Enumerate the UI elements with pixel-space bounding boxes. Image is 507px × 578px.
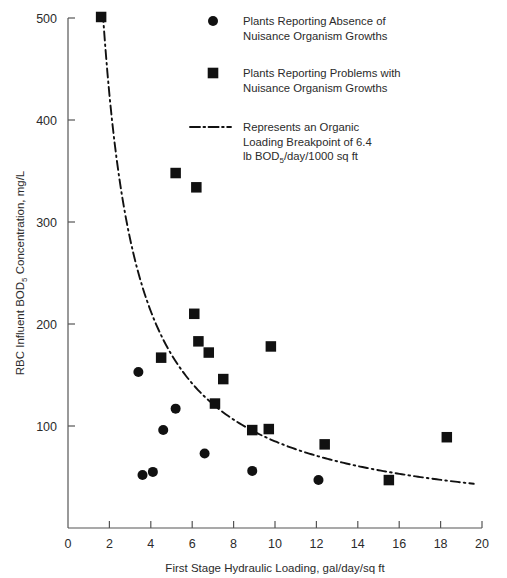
legend-label: Plants Reporting Absence ofNuisance Orga… [243, 15, 388, 42]
data-point-square [189, 309, 200, 320]
legend-circle-icon [208, 16, 218, 26]
data-point-square [264, 424, 275, 435]
x-tick-label: 0 [65, 537, 72, 551]
data-point-circle [158, 425, 168, 435]
legend-label-line2: Nuisance Organism Growths [243, 82, 388, 94]
x-tick-label: 8 [230, 537, 237, 551]
legend-item-absence: Plants Reporting Absence ofNuisance Orga… [208, 15, 388, 42]
x-axis-title: First Stage Hydraulic Loading, gal/day/s… [165, 562, 385, 574]
data-point-circle [247, 466, 257, 476]
x-tick-label: 18 [434, 537, 448, 551]
x-tick-label: 6 [189, 537, 196, 551]
data-point-square [156, 352, 167, 363]
data-point-square [247, 425, 257, 436]
data-point-square [266, 341, 277, 352]
legend-item-problems: Plants Reporting Problems withNuisance O… [208, 67, 401, 94]
y-tick-label: 400 [36, 114, 57, 128]
x-tick-label: 2 [106, 537, 113, 551]
y-axis-ticks: 100200300400500 [36, 12, 75, 434]
x-tick-label: 20 [475, 537, 489, 551]
legend-item-breakpoint: Represents an OrganicLoading Breakpoint … [190, 121, 372, 165]
series-absence-markers [133, 367, 323, 485]
y-tick-label: 200 [36, 318, 57, 332]
x-tick-label: 4 [147, 537, 154, 551]
chart-legend: Plants Reporting Absence ofNuisance Orga… [190, 15, 401, 165]
y-axis-title-text: RBC Influent BOD5 Concentration, mg/L [14, 170, 29, 375]
data-point-circle [133, 367, 143, 377]
legend-label: Represents an OrganicLoading Breakpoint … [243, 121, 372, 165]
x-tick-label: 14 [351, 537, 365, 551]
data-point-square [210, 398, 221, 409]
y-tick-label: 500 [36, 12, 57, 26]
x-tick-label: 12 [309, 537, 323, 551]
data-point-square [191, 182, 202, 193]
legend-label-line1: Plants Reporting Problems with [243, 67, 401, 79]
y-axis-title: RBC Influent BOD5 Concentration, mg/L [14, 170, 29, 375]
legend-label-line1: Plants Reporting Absence of [243, 15, 386, 27]
x-tick-label: 16 [392, 537, 406, 551]
data-point-square [384, 475, 395, 486]
data-point-circle [148, 467, 158, 477]
legend-label-line3: lb BOD [243, 150, 279, 162]
x-axis-ticks: 02468101214161820 [65, 521, 489, 551]
legend-label-line2: Loading Breakpoint of 6.4 [243, 136, 372, 148]
y-title-post: Concentration, mg/L [14, 170, 26, 277]
data-point-square [218, 374, 229, 385]
data-point-square [96, 12, 107, 23]
data-point-square [204, 347, 215, 358]
data-point-square [170, 168, 181, 179]
x-tick-label: 10 [268, 537, 282, 551]
data-point-square [319, 439, 330, 450]
y-tick-label: 300 [36, 216, 57, 230]
legend-label-line3-post: /day/1000 sq ft [284, 150, 359, 162]
chart-figure: 100200300400500 02468101214161820 First … [0, 0, 507, 578]
scatter-plot-canvas: 100200300400500 02468101214161820 First … [0, 0, 507, 578]
data-point-square [193, 336, 204, 347]
data-point-square [442, 432, 453, 443]
legend-label: Plants Reporting Problems withNuisance O… [243, 67, 401, 94]
data-point-circle [138, 470, 148, 480]
legend-label-line2: Nuisance Organism Growths [243, 30, 388, 42]
data-point-circle [171, 404, 181, 414]
legend-square-icon [208, 68, 219, 79]
y-tick-label: 100 [36, 420, 57, 434]
y-title-pre: RBC Influent BOD [14, 282, 26, 375]
data-point-circle [200, 449, 210, 459]
data-point-circle [313, 475, 323, 485]
legend-label-line1: Represents an Organic [243, 121, 360, 133]
